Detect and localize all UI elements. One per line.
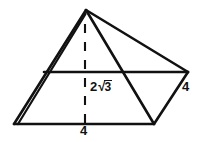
square-root-icon: √3 bbox=[98, 80, 111, 93]
geometry-figure: 2√3 4 4 bbox=[0, 0, 202, 142]
height-label-radicand: 3 bbox=[104, 80, 112, 93]
slant-edge-label: 4 bbox=[182, 80, 189, 93]
edge-apex-to-base-right bbox=[86, 10, 188, 72]
height-label-coefficient: 2 bbox=[90, 79, 97, 94]
edge-apex-to-front-left-inner bbox=[18, 14, 86, 124]
edge-apex-to-front-right bbox=[86, 10, 154, 124]
pyramid-drawing bbox=[0, 0, 202, 142]
base-edge-label: 4 bbox=[80, 124, 87, 137]
height-label: 2√3 bbox=[90, 80, 112, 93]
edge-apex-to-front-left-outer bbox=[14, 10, 86, 124]
